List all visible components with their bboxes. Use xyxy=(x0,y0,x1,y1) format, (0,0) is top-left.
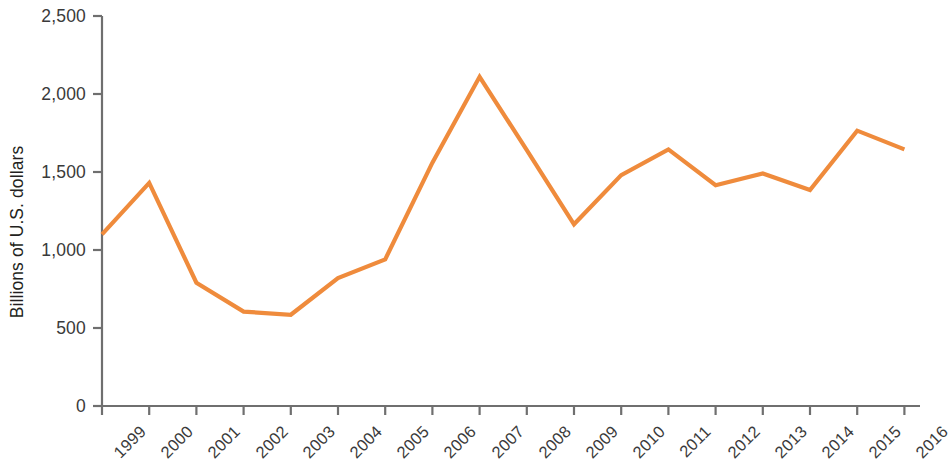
axis-lines xyxy=(102,16,920,406)
x-axis-ticks xyxy=(102,406,904,415)
y-axis-ticks xyxy=(93,16,102,406)
data-series-line xyxy=(102,77,904,315)
